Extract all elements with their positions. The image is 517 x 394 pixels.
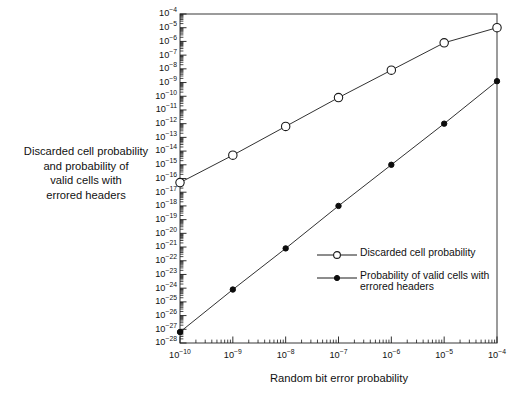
x-axis-tick-label: 10−9 — [210, 351, 256, 360]
x-axis-tick-labels: 10−1010−910−810−710−610−510−4 — [0, 0, 517, 394]
legend-label: Discarded cell probability — [360, 247, 490, 259]
x-axis-title: Random bit error probability — [180, 372, 498, 385]
chart-legend: Discarded cell probability Probability o… — [360, 247, 490, 304]
chart-figure: Discarded cell probability and probabili… — [0, 0, 517, 394]
legend-item-discarded-cell-probability: Discarded cell probability — [360, 247, 490, 259]
filled-circle-marker-icon — [317, 273, 357, 283]
x-axis-tick-label: 10−7 — [316, 351, 362, 360]
x-axis-tick-label: 10−8 — [263, 351, 309, 360]
x-axis-tick-label: 10−5 — [421, 351, 467, 360]
legend-label: Probability of valid cells with errored … — [360, 270, 490, 293]
x-axis-tick-label: 10−6 — [368, 351, 414, 360]
x-axis-tick-label: 10−10 — [157, 351, 203, 360]
legend-item-valid-cells-errored-headers: Probability of valid cells with errored … — [360, 270, 490, 293]
x-axis-tick-label: 10−4 — [474, 351, 517, 360]
open-circle-marker-icon — [317, 250, 357, 260]
